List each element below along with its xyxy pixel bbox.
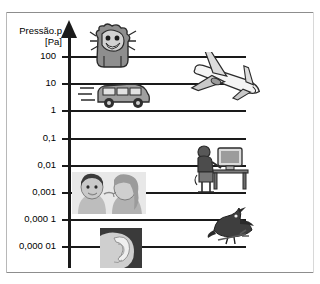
pressure-axis-line (68, 36, 71, 268)
axis-tick-label: 0,000 01 (0, 240, 56, 251)
axis-tick-label: 0,01 (0, 159, 56, 170)
axis-tick-label: 0,001 (0, 186, 56, 197)
axis-tick (62, 138, 77, 140)
gridline (71, 138, 246, 140)
axis-tick (62, 110, 77, 112)
axis-tick (62, 56, 77, 58)
pressure-scale-figure: Pressão.p [Pa] 1001010,10,010,0010,000 1… (0, 0, 320, 284)
person-at-computer-illustration (192, 142, 252, 196)
airplane-illustration (186, 52, 264, 114)
axis-tick-label: 0,000 1 (0, 213, 56, 224)
car-illustration (78, 80, 152, 110)
axis-tick-label: 10 (0, 77, 56, 88)
axis-tick-label: 0,1 (0, 132, 56, 143)
bird-illustration (206, 204, 258, 246)
axis-title-text: Pressão.p (19, 25, 62, 36)
axis-tick (62, 246, 77, 248)
figure-frame-top (6, 12, 314, 13)
axis-tick (62, 165, 77, 167)
axis-title: Pressão.p [Pa] (8, 26, 62, 47)
axis-tick (62, 219, 77, 221)
ear-photo (100, 228, 142, 268)
whispering-women-photo (72, 172, 146, 214)
axis-tick (62, 83, 77, 85)
axis-tick-label: 100 (0, 50, 56, 61)
figure-frame-right (313, 12, 314, 273)
figure-frame-bottom (6, 272, 314, 273)
axis-tick-label: 1 (0, 104, 56, 115)
gridline (71, 246, 246, 248)
axis-unit-text: [Pa] (8, 37, 62, 48)
shouting-person-illustration (88, 22, 138, 70)
